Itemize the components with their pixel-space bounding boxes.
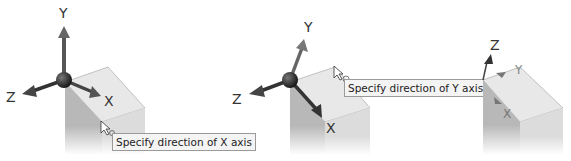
block [483,67,563,155]
z-axis-label: Z [6,89,16,105]
panel-3-result: Z Y X [440,0,571,161]
y-axis-label: Y [58,5,68,21]
x-axis-label: X [503,107,511,121]
y-axis-label: Y [514,63,523,77]
z-axis-label: Z [232,91,242,107]
panel-2-y-axis: Y Z X Specify direction of Y axis [220,0,460,161]
y-axis-label: Y [303,19,313,35]
x-axis-label: X [104,93,114,109]
panel-1-x-axis: Y Z X Specify direction of X axis [0,0,240,161]
panel-3-scene: Z Y X [440,0,571,161]
z-axis-label: Z [490,37,500,53]
x-axis-label: X [326,120,336,136]
